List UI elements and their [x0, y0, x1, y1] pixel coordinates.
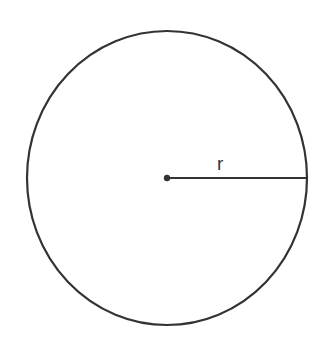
circle-diagram: r [0, 0, 328, 351]
center-point [164, 175, 170, 181]
radius-label: r [217, 153, 224, 174]
